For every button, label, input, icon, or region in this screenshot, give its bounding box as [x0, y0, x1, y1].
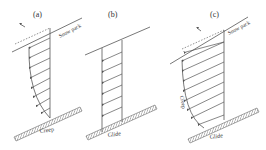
velocity-arrows	[104, 52, 122, 115]
dotted-reference-line	[182, 30, 224, 49]
glide-label-c: Glide	[209, 132, 223, 140]
creep-glide-profile-curve	[182, 60, 204, 128]
ground-slope-c	[188, 108, 259, 143]
velocity-arrow-icon	[196, 27, 201, 31]
creep-label: Creep	[39, 126, 54, 134]
velocity-arrow-icon	[19, 23, 25, 27]
ground-slope-a	[14, 107, 82, 141]
creep-profile-curve	[29, 47, 50, 118]
panel-a-label: (a)	[33, 10, 42, 19]
snow-surface-line	[12, 18, 82, 52]
panel-b: (b) Glide	[85, 10, 157, 140]
snow-surface-line	[170, 17, 248, 64]
panel-c: (c) Snow pack Creep Glide	[170, 10, 259, 143]
velocity-arrows	[31, 38, 50, 112]
snowpack-label-a: Snow pack	[58, 22, 82, 39]
ground-slope-b	[86, 105, 157, 140]
panel-a: (a) Snow pack Creep	[12, 10, 82, 141]
creep-label-c: Creep	[179, 95, 187, 109]
snow-surface-line	[85, 27, 150, 55]
glide-label-b: Glide	[107, 130, 121, 138]
velocity-arrows	[184, 42, 224, 124]
panel-b-label: (b)	[108, 10, 118, 19]
panel-c-label: (c)	[210, 10, 219, 19]
snow-movement-diagram: (a) Snow pack Creep (b)	[0, 0, 266, 150]
